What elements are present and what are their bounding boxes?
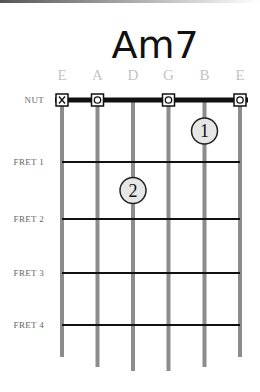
open-string-marker [163,94,175,106]
nut-bar [55,98,248,103]
string-name: A [92,67,103,83]
nut-label: NUT [25,95,45,105]
fret-label: FRET 4 [14,320,45,330]
marker-box [92,94,104,106]
finger-number: 2 [129,181,138,201]
fret-label: FRET 1 [14,157,44,167]
fret-label: FRET 3 [14,268,45,278]
fret-label: FRET 2 [14,214,44,224]
finger-dot: 2 [120,178,146,204]
open-string-marker [234,94,246,106]
marker-box [234,94,246,106]
frets [62,162,240,325]
chord-diagram: Am7 EADGBE FRET 1FRET 2FRET 3FRET 4 NUT … [0,0,260,392]
string-names: EADGBE [57,67,244,83]
open-string-marker [92,94,104,106]
finger-number: 1 [200,121,209,141]
marker-box [163,94,175,106]
chord-title: Am7 [111,23,198,67]
fret-labels: FRET 1FRET 2FRET 3FRET 4 [14,157,45,330]
string-name: E [235,67,244,83]
muted-string-marker [56,94,68,106]
finger-dot: 1 [192,118,218,144]
string-name: G [163,67,174,83]
string-name: B [199,67,209,83]
string-name: D [128,67,139,83]
string-name: E [57,67,66,83]
